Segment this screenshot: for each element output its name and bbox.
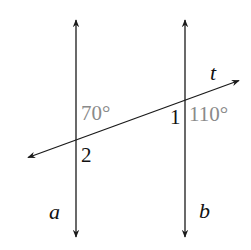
line-t-label: t: [210, 60, 217, 85]
angle-110-label: 110°: [189, 102, 228, 126]
diagram-canvas: 70° 110° 1 2 t a b: [0, 0, 251, 250]
line-b-label: b: [199, 198, 210, 223]
angle-1-label: 1: [170, 105, 181, 129]
angle-70-label: 70°: [81, 101, 110, 125]
geometry-diagram: 70° 110° 1 2 t a b: [0, 0, 251, 250]
angle-2-label: 2: [81, 143, 92, 167]
line-a-label: a: [49, 199, 60, 224]
